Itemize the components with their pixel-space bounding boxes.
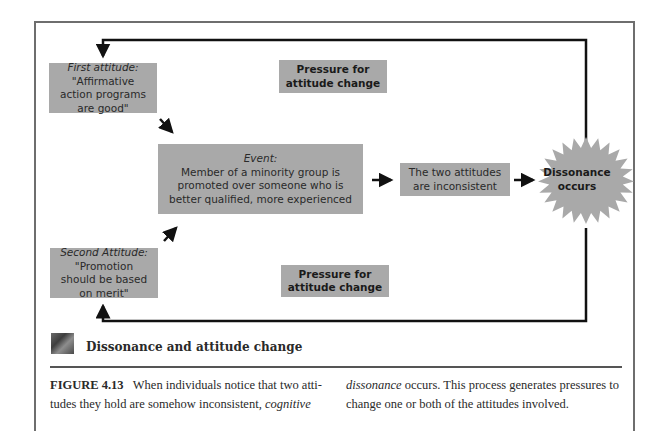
pressure-bottom-line2: attitude change [288, 281, 382, 295]
pressure-bottom-box: Pressure for attitude change [281, 265, 389, 297]
pressure-top-box: Pressure for attitude change [279, 60, 387, 93]
pressure-bottom-line1: Pressure for [299, 268, 372, 282]
second-attitude-box: Second Attitude: "Promotion should be ba… [50, 248, 158, 298]
caption-column-1: FIGURE 4.13 When individuals notice that… [50, 376, 330, 414]
figure-title: Dissonance and attitude change [86, 340, 302, 354]
pressure-top-line1: Pressure for [297, 63, 370, 77]
event-heading: Event: [244, 152, 278, 166]
inconsistent-text: The two attitudes are inconsistent [400, 166, 510, 193]
caption-divider [50, 366, 622, 368]
inconsistent-box: The two attitudes are inconsistent [400, 163, 510, 196]
figure-label: FIGURE 4.13 [50, 378, 124, 392]
dissonance-label: Dissonance occurs [532, 165, 622, 193]
second-attitude-heading: Second Attitude: [60, 246, 148, 260]
caption-column-2: dissonance occurs. This process generate… [346, 376, 626, 414]
dissonance-line2: occurs [532, 179, 622, 193]
caption-col2-italic: dissonance [346, 378, 402, 392]
top-feedback-arrow [103, 40, 586, 146]
first-to-event-arrow [160, 119, 172, 132]
first-attitude-text: "Affirmative action programs are good" [49, 75, 157, 116]
figure-thumbnail-icon [51, 333, 74, 354]
first-attitude-box: First attitude: "Affirmative action prog… [49, 63, 157, 113]
pressure-top-line2: attitude change [286, 77, 380, 91]
event-box: Event: Member of a minority group is pro… [158, 144, 363, 214]
first-attitude-heading: First attitude: [67, 61, 138, 75]
event-text: Member of a minority group is promoted o… [158, 166, 363, 207]
second-attitude-text: "Promotion should be based on merit" [50, 260, 158, 301]
caption-col1-italic: cognitive [265, 397, 311, 411]
dissonance-line1: Dissonance [532, 165, 622, 179]
second-to-event-arrow [164, 228, 176, 241]
